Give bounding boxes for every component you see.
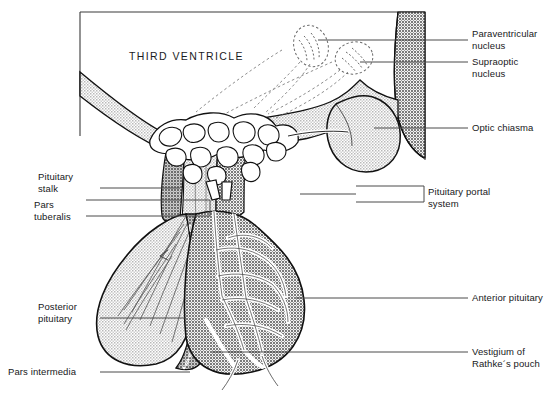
label-pars-intermedia: Pars intermedia [8, 366, 76, 378]
label-pars-tuberalis: Pars tuberalis [34, 199, 71, 222]
optic-chiasma-shape [327, 96, 400, 172]
bracket-pituitary-portal-system [300, 186, 424, 202]
label-paraventricular-nucleus: Paraventricular nucleus [472, 28, 537, 51]
supraoptic-nucleus-shape [332, 38, 377, 78]
posterior-pituitary-shape [97, 214, 194, 366]
label-pituitary-stalk: Pituitary stalk [38, 171, 73, 194]
anterior-pituitary-shape [184, 211, 304, 390]
third-ventricle-label: THIRD VENTRICLE [129, 50, 244, 62]
label-vestigium-rathkes-pouch: Vestigium of Rathke´s pouch [472, 346, 540, 369]
label-anterior-pituitary: Anterior pituitary [472, 292, 543, 304]
label-posterior-pituitary: Posterior pituitary [38, 301, 77, 324]
label-pituitary-portal-system: Pituitary portal system [428, 186, 490, 209]
paraventricular-nucleus-shape [288, 21, 333, 71]
anatomical-figure: THIRD VENTRICLE Paraventricular nucleus … [0, 0, 548, 402]
label-optic-chiasma: Optic chiasma [472, 122, 534, 134]
label-supraoptic-nucleus: Supraoptic nucleus [472, 56, 518, 79]
